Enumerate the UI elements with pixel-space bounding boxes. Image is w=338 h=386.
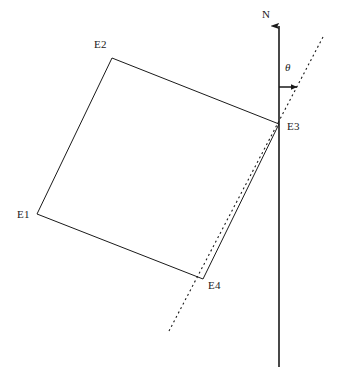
dashed-reference-line: [169, 37, 323, 331]
vertex-label-e1: E1: [17, 209, 30, 220]
geometry-diagram-canvas: N θ E1 E2 E3 E4: [0, 0, 338, 386]
vertex-label-e3: E3: [287, 121, 300, 132]
quadrilateral-shape: [37, 58, 279, 279]
angle-theta-label: θ: [285, 62, 290, 73]
vertex-label-e2: E2: [94, 39, 107, 50]
diagram-vector-layer: [0, 0, 338, 386]
vertex-label-e4: E4: [208, 280, 221, 291]
north-axis-label: N: [262, 9, 270, 20]
